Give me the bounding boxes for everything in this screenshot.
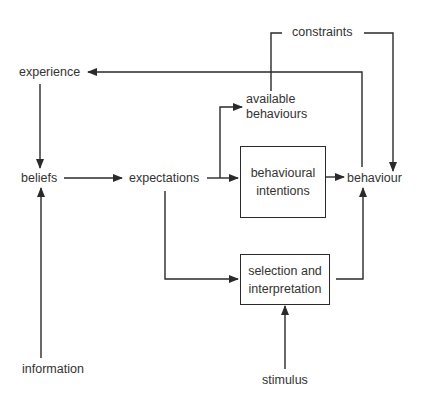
intentions-line2: intentions <box>256 184 310 198</box>
node-experience: experience <box>19 65 80 80</box>
node-stimulus: stimulus <box>262 373 308 388</box>
box-selection-interpretation: selection and interpretation <box>240 254 330 305</box>
selection-line2: interpretation <box>249 282 322 296</box>
connector-lines <box>0 0 423 400</box>
arrow-selection-to-behaviour <box>336 188 363 279</box>
line-constraints-to-available <box>271 33 282 91</box>
node-behaviour: behaviour <box>347 171 402 186</box>
available-line1: available <box>246 92 295 106</box>
box-behavioural-intentions: behavioural intentions <box>240 146 326 218</box>
intentions-line1: behavioural <box>251 166 316 180</box>
node-expectations: expectations <box>129 171 199 186</box>
arrow-expectations-to-selection <box>165 191 238 279</box>
node-available-behaviours: available behaviours <box>246 92 307 122</box>
arrow-expectations-to-available <box>220 107 242 178</box>
arrow-constraints-to-behaviour <box>364 33 393 171</box>
available-line2: behaviours <box>246 107 307 121</box>
selection-line1: selection and <box>248 264 322 278</box>
node-information: information <box>22 362 84 377</box>
node-constraints: constraints <box>292 25 352 40</box>
node-beliefs: beliefs <box>21 171 57 186</box>
